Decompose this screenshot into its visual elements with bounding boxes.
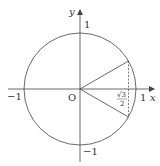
y-axis-label: y — [68, 6, 75, 17]
origin-label: O — [68, 92, 76, 103]
tick-y-1: 1 — [84, 19, 90, 30]
tick-y-minus-1: −1 — [83, 146, 98, 157]
fraction-denominator: 2 — [120, 100, 124, 108]
tick-x-1: 1 — [140, 92, 146, 103]
fraction-numerator: √3 — [117, 91, 126, 99]
tick-x-minus-1: −1 — [7, 91, 22, 102]
x-axis-label: x — [150, 92, 156, 103]
unit-circle-diagram: y x O 1 −1 −1 1 √3 2 — [0, 0, 160, 166]
ray-30deg — [80, 61, 129, 89]
